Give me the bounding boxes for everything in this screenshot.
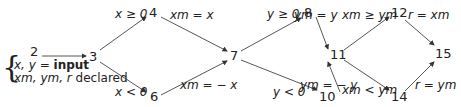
edge-label-14-15: r = ym xyxy=(415,79,456,91)
node-6: 6 xyxy=(150,90,158,103)
edge-4-7 xyxy=(161,17,227,51)
edge-label-8-11: ym = y xyxy=(294,9,338,21)
annotation-line-2: xm, ym, r declared xyxy=(14,72,128,84)
edge-label-11-14: xm < ym xyxy=(342,84,397,96)
node-2: 2 xyxy=(30,45,38,58)
edge-label-11-12: xm ≥ ym xyxy=(342,9,397,21)
node-7: 7 xyxy=(230,49,238,62)
edge-label-3-6: x < 0 xyxy=(115,86,147,98)
node-11: 11 xyxy=(330,48,347,61)
edge-12-15 xyxy=(405,20,434,45)
annotation-line-1: x, y = input xyxy=(14,59,89,71)
edge-label-4-7: xm = x xyxy=(170,9,214,21)
edge-3-4 xyxy=(100,17,146,50)
edge-label-3-4: x ≥ 0 xyxy=(115,8,147,20)
node-3: 3 xyxy=(89,50,97,63)
edge-7-8 xyxy=(241,18,301,51)
node-4: 4 xyxy=(149,6,157,19)
edge-label-6-7: xm = − x xyxy=(180,79,237,91)
edge-label-12-15: r = xm xyxy=(408,9,449,21)
node-15: 15 xyxy=(435,47,452,60)
